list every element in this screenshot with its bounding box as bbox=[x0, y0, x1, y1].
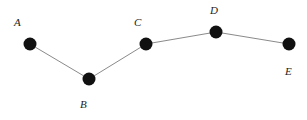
edges bbox=[30, 32, 289, 79]
node-label-B: B bbox=[80, 98, 87, 110]
node-C bbox=[140, 38, 153, 51]
node-B bbox=[83, 73, 96, 86]
graph-diagram: ABCDE bbox=[0, 0, 307, 120]
edge-A-B bbox=[30, 44, 89, 79]
edge-B-C bbox=[89, 44, 146, 79]
edge-C-D bbox=[146, 32, 216, 44]
node-label-D: D bbox=[209, 4, 218, 16]
node-D bbox=[210, 26, 223, 39]
labels: ABCDE bbox=[13, 4, 292, 110]
edge-D-E bbox=[216, 32, 289, 44]
node-E bbox=[283, 38, 296, 51]
node-label-A: A bbox=[13, 16, 21, 28]
node-A bbox=[24, 38, 37, 51]
node-label-E: E bbox=[284, 65, 292, 77]
nodes bbox=[24, 26, 296, 86]
node-label-C: C bbox=[134, 16, 142, 28]
